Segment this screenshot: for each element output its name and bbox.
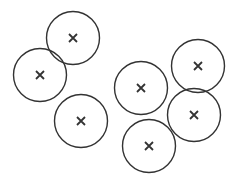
cross-icon — [77, 117, 85, 125]
circle-diagram — [0, 0, 236, 183]
cross-icon — [36, 71, 44, 79]
cross-icon — [69, 34, 77, 42]
cross-icon — [145, 142, 153, 150]
cross-icon — [190, 111, 198, 119]
circle-node — [47, 12, 100, 65]
circle-node — [168, 89, 221, 142]
cross-icon — [194, 62, 202, 70]
circle-node — [123, 120, 176, 173]
circle-node — [115, 62, 168, 115]
cross-icon — [137, 84, 145, 92]
circle-node — [14, 49, 67, 102]
circle-node — [172, 40, 225, 93]
circle-node — [55, 95, 108, 148]
